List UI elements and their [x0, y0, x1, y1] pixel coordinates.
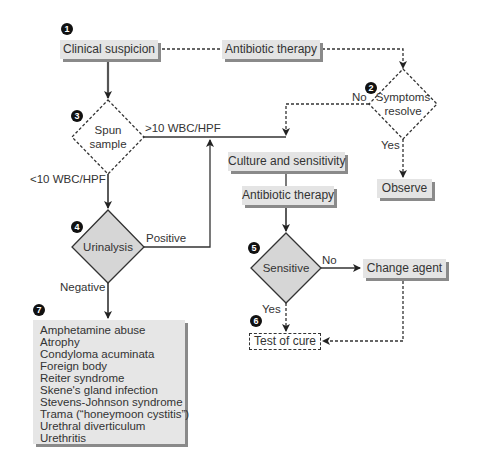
- observe-box: Observe: [377, 179, 432, 198]
- edge-label-no-symptoms: No: [352, 91, 367, 103]
- urinalysis-label: Urinalysis: [78, 240, 138, 254]
- edge-label-no-sensitive: No: [322, 254, 337, 266]
- step-badge-5: 5: [248, 242, 260, 254]
- edge-label-yes-sensitive: Yes: [262, 303, 281, 315]
- antibiotic-therapy-top-box: Antibiotic therapy: [222, 40, 320, 59]
- edge-label-positive: Positive: [146, 232, 186, 244]
- list-item: Urethritis: [40, 432, 185, 444]
- edge-label-gt10: >10 WBC/HPF: [145, 122, 221, 134]
- list-item: Skene's gland infection: [40, 384, 185, 396]
- symptoms-resolve-label: Symptoms resolve: [373, 90, 433, 118]
- antibiotic-therapy-mid-box: Antibiotic therapy: [242, 186, 334, 205]
- edge-label-lt10: <10 WBC/HPF: [30, 173, 106, 185]
- list-item: Trama (“honeymoon cystitis”): [40, 408, 185, 420]
- list-item: Foreign body: [40, 360, 185, 372]
- list-item: Urethral diverticulum: [40, 420, 185, 432]
- clinical-suspicion-box: Clinical suspicion: [60, 40, 158, 59]
- step-badge-4: 4: [71, 221, 83, 233]
- step-badge-7: 7: [33, 304, 45, 316]
- step-badge-6: 6: [250, 315, 262, 327]
- change-agent-box: Change agent: [363, 259, 446, 278]
- edge-label-negative: Negative: [60, 281, 105, 293]
- list-item: Amphetamine abuse: [40, 324, 185, 336]
- differential-diagnosis-list: Amphetamine abuse Atrophy Condyloma acum…: [33, 320, 185, 444]
- sensitive-label: Sensitive: [256, 261, 316, 275]
- list-item: Reiter syndrome: [40, 372, 185, 384]
- list-item: Condyloma acuminata: [40, 348, 185, 360]
- step-badge-1: 1: [61, 23, 73, 35]
- edge-label-yes-symptoms: Yes: [381, 139, 400, 151]
- culture-sensitivity-box: Culture and sensitivity: [228, 152, 345, 171]
- step-badge-3: 3: [71, 110, 83, 122]
- spun-sample-label: Spun sample: [80, 123, 136, 151]
- list-item: Stevens-Johnson syndrome: [40, 396, 185, 408]
- test-of-cure-box: Test of cure: [249, 333, 321, 350]
- list-item: Atrophy: [40, 336, 185, 348]
